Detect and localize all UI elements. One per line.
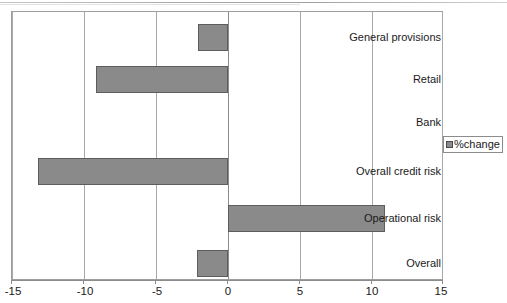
x-tick-10 (371, 280, 372, 284)
x-tick--5 (155, 280, 156, 284)
category-label-overall-credit-risk: Overall credit risk (225, 165, 442, 177)
legend[interactable]: %change (443, 136, 503, 153)
category-label-bank: Bank (225, 116, 442, 128)
legend-label: %change (454, 139, 500, 150)
x-tick-label--5: -5 (152, 285, 162, 297)
bar-general-provisions[interactable] (198, 24, 228, 51)
x-tick-label-15: 15 (435, 285, 448, 297)
category-label-retail: Retail (225, 73, 442, 85)
category-label-operational-risk: Operational risk (225, 212, 442, 224)
legend-swatch-icon (446, 141, 453, 148)
x-tick-label-10: 10 (366, 285, 379, 297)
x-tick--10 (83, 280, 84, 284)
x-tick-5 (299, 280, 300, 284)
x-tick-0 (227, 280, 228, 284)
x-tick-label--15: -15 (5, 285, 22, 297)
category-label-overall: Overall (225, 257, 442, 269)
x-tick-15 (442, 280, 443, 284)
x-tick-label-0: 0 (225, 285, 231, 297)
category-label-general-provisions: General provisions (225, 31, 442, 43)
bars-layer (12, 12, 442, 279)
bar-chart-figure: General provisions Retail Bank Overall c… (0, 0, 507, 303)
bar-retail[interactable] (96, 66, 228, 93)
plot-area: General provisions Retail Bank Overall c… (11, 11, 443, 280)
x-tick-label--10: -10 (77, 285, 94, 297)
bar-overall[interactable] (197, 250, 228, 277)
bar-overall-credit-risk[interactable] (38, 158, 228, 185)
scan-artifact-line (0, 2, 507, 3)
x-tick--15 (11, 280, 12, 284)
x-tick-label-5: 5 (297, 285, 303, 297)
scan-artifact-line-secondary (0, 4, 300, 5)
